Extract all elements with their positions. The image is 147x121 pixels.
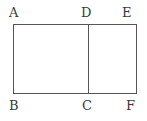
vertex-label-d: D: [81, 6, 91, 19]
vertex-label-e: E: [122, 6, 132, 19]
vertex-label-b: B: [9, 99, 19, 112]
vertex-label-a: A: [9, 6, 18, 19]
vertex-label-f: F: [126, 99, 135, 112]
geometry-figure: A D E B C F: [0, 0, 147, 121]
vertex-label-c: C: [82, 99, 92, 112]
rectangle-abfe: [13, 24, 137, 94]
